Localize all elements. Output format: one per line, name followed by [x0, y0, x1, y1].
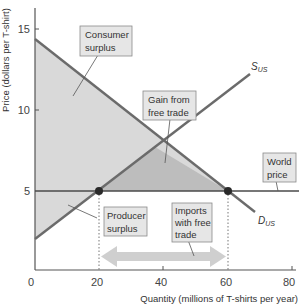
- imports-arrow: [101, 246, 226, 267]
- imports-label-2: with free: [174, 217, 211, 228]
- gain-label-1: Gain from: [148, 94, 190, 105]
- world-price-label-1: World: [267, 156, 292, 167]
- y-axis-title: Price (dollars per T-shirt): [0, 8, 11, 112]
- world-price-label-2: price: [267, 169, 288, 180]
- x-axis-title: Quantity (millions of T-shirts per year): [140, 293, 298, 304]
- imports-label-3: trade: [175, 229, 197, 240]
- producer-surplus-label-1: Producer: [107, 210, 146, 221]
- y-tick-label-15: 15: [18, 23, 30, 35]
- world-price-leader: [276, 181, 278, 191]
- demand-label: DUS: [258, 215, 275, 227]
- x-tick-label-40: 40: [155, 276, 167, 288]
- x-tick-label-60: 60: [220, 276, 232, 288]
- consumer-surplus-label-1: Consumer: [85, 29, 129, 40]
- x-tick-label-80: 80: [283, 276, 295, 288]
- chart: Consumer surplus Gain from free trade Wo…: [0, 0, 306, 307]
- domestic-supply-point: [95, 187, 103, 195]
- x-tick-label-0: 0: [28, 276, 34, 288]
- y-tick-label-5: 5: [24, 185, 30, 197]
- x-tick-label-20: 20: [91, 276, 103, 288]
- consumer-surplus-label-2: surplus: [85, 42, 116, 53]
- y-tick-label-10: 10: [18, 104, 30, 116]
- gain-label-2: free trade: [148, 107, 189, 118]
- producer-surplus-label-2: surplus: [107, 223, 138, 234]
- domestic-demand-point: [224, 187, 232, 195]
- imports-label-1: Imports: [175, 205, 207, 216]
- supply-label: SUS: [251, 61, 268, 73]
